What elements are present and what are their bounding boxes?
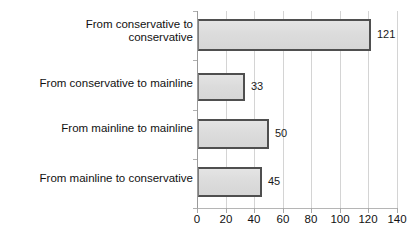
- category-label-line: From conservative to mainline: [3, 77, 193, 90]
- bar: [198, 119, 269, 149]
- y-tick-mark: [193, 159, 197, 160]
- category-label: From mainline to conservative: [3, 172, 193, 185]
- bar-value-label: 45: [268, 176, 280, 187]
- gridline: [397, 11, 398, 208]
- bar-chart-figure: From conservative toconservativeFrom con…: [0, 0, 417, 230]
- bar: [198, 73, 245, 101]
- x-axis-line: [197, 208, 397, 209]
- y-tick-mark: [193, 11, 197, 12]
- y-tick-mark: [193, 110, 197, 111]
- category-label: From mainline to mainline: [3, 122, 193, 135]
- bar-value-label: 33: [251, 81, 263, 92]
- category-label-line: From mainline to conservative: [3, 172, 193, 185]
- category-label-line: conservative: [3, 31, 193, 44]
- bar: [198, 167, 262, 197]
- plot-area: 121335045: [197, 11, 397, 208]
- chart-title-clipped: [0, 0, 417, 11]
- bar-value-label: 121: [377, 29, 395, 40]
- x-tick-label: 140: [377, 213, 417, 225]
- bar-value-label: 50: [275, 128, 287, 139]
- category-label: From conservative to mainline: [3, 77, 193, 90]
- category-label: From conservative toconservative: [3, 18, 193, 44]
- y-tick-mark: [193, 60, 197, 61]
- category-label-line: From conservative to: [3, 18, 193, 31]
- bar: [198, 19, 371, 51]
- category-label-line: From mainline to mainline: [3, 122, 193, 135]
- y-tick-mark: [193, 208, 197, 209]
